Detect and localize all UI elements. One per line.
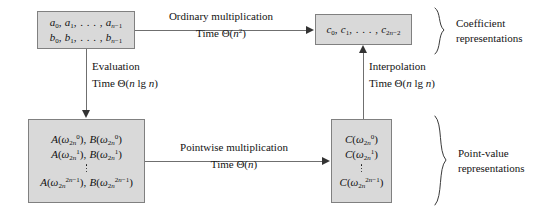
pv-c-vertical-ellipsis <box>361 162 363 175</box>
pointwise-multiplication-time: Time Θ(n) <box>163 156 305 173</box>
pv-ab-vertical-ellipsis <box>86 162 88 175</box>
interpolation-arrow-head <box>359 45 367 53</box>
point-value-representation-c-box: C(ω2n0) C(ω2n1) C(ω2n2n−1) <box>331 119 392 203</box>
coefficient-representations-line2: representations <box>456 31 523 46</box>
ordinary-multiplication-title: Ordinary multiplication <box>169 10 273 22</box>
ordinary-multiplication-time: Time Θ(n2) <box>150 25 292 42</box>
pv-ab-row-0: A(ω2n0), B(ω2n0) <box>51 132 122 147</box>
coefficient-representation-ab-box: a0, a1, . . . , an−1 b0, b1, . . . , bn−… <box>37 11 135 49</box>
point-value-representations-line1: Point-value <box>458 146 525 161</box>
coefficient-representations-line1: Coefficient <box>456 16 523 31</box>
interpolation-label: Interpolation Time Θ(n lg n) <box>369 58 435 92</box>
evaluation-arrow-line <box>86 49 87 111</box>
fft-polynomial-multiplication-diagram: a0, a1, . . . , an−1 b0, b1, . . . , bn−… <box>0 0 553 211</box>
point-value-representation-ab-box: A(ω2n0), B(ω2n0) A(ω2n1), B(ω2n1) A(ω2n2… <box>28 119 145 203</box>
point-value-representations-line2: representations <box>458 161 525 176</box>
coeff-ab-row-b: b0, b1, . . . , bn−1 <box>50 30 122 45</box>
pv-c-row-last: C(ω2n2n−1) <box>340 175 384 190</box>
pointwise-multiplication-arrow-head <box>322 157 330 165</box>
interpolation-arrow-line <box>363 53 364 119</box>
coefficient-representations-label: Coefficient representations <box>456 16 523 46</box>
interpolation-title: Interpolation <box>369 60 426 72</box>
point-value-representations-brace <box>432 115 450 207</box>
ordinary-multiplication-label: Ordinary multiplication Time Θ(n2) <box>150 8 292 42</box>
pointwise-multiplication-title: Pointwise multiplication <box>180 141 288 153</box>
pointwise-multiplication-label: Pointwise multiplication Time Θ(n) <box>163 139 305 173</box>
coefficient-representations-brace <box>432 7 448 55</box>
ordinary-multiplication-arrow-head <box>306 26 314 34</box>
pv-ab-row-last: A(ω2n2n−1), B(ω2n2n−1) <box>40 175 133 190</box>
evaluation-title: Evaluation <box>92 60 140 72</box>
pv-c-row-1: C(ω2n1) <box>345 147 378 162</box>
pv-ab-row-1: A(ω2n1), B(ω2n1) <box>51 147 122 162</box>
point-value-representations-label: Point-value representations <box>458 146 525 176</box>
interpolation-time: Time Θ(n lg n) <box>369 75 435 92</box>
coeff-c-row: c0, c1, . . . , c2n−2 <box>326 22 400 37</box>
pv-c-row-0: C(ω2n0) <box>345 132 378 147</box>
coeff-ab-row-a: a0, a1, . . . , an−1 <box>50 15 122 30</box>
evaluation-arrow-head <box>82 110 90 118</box>
coefficient-representation-c-box: c0, c1, . . . , c2n−2 <box>315 14 412 45</box>
evaluation-label: Evaluation Time Θ(n lg n) <box>92 58 158 92</box>
evaluation-time: Time Θ(n lg n) <box>92 75 158 92</box>
